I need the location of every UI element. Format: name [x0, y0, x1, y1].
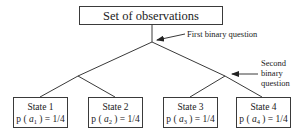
- state-node-3: State 3 p ( a3 ) = 1/4: [164, 98, 218, 128]
- state-probability: p ( a4 ) = 1/4: [239, 114, 288, 125]
- state-label: State 3: [177, 102, 203, 112]
- state-node-4: State 4 p ( a4 ) = 1/4: [237, 98, 291, 128]
- first-question-annotation: First binary question: [157, 29, 258, 40]
- root-node: Set of observations: [80, 7, 223, 25]
- state-label: State 2: [102, 102, 128, 112]
- second-question-line-2: binary: [261, 68, 283, 78]
- first-question-label: First binary question: [187, 29, 258, 39]
- edge-left-branch: [78, 42, 152, 76]
- state-node-1: State 1 p ( a1 ) = 1/4: [14, 98, 68, 128]
- edge-to-state-4: [225, 76, 262, 97]
- edge-to-state-2: [78, 76, 115, 97]
- edge-to-state-3: [190, 76, 225, 97]
- state-probability: p ( a1 ) = 1/4: [16, 114, 65, 125]
- second-question-annotation: Second binary question: [232, 58, 291, 88]
- arrow-icon: [157, 34, 185, 40]
- state-probability: p ( a2 ) = 1/4: [91, 114, 140, 125]
- edge-to-state-1: [40, 76, 78, 97]
- state-node-2: State 2 p ( a2 ) = 1/4: [89, 98, 143, 128]
- root-label: Set of observations: [103, 9, 199, 23]
- binary-decision-tree: Set of observations First binary questio…: [0, 0, 305, 136]
- state-probability: p ( a3 ) = 1/4: [166, 114, 215, 125]
- edge-right-branch: [152, 42, 225, 76]
- state-label: State 1: [27, 102, 53, 112]
- second-question-line-1: Second: [261, 58, 287, 68]
- state-label: State 4: [250, 102, 276, 112]
- second-question-line-3: question: [261, 78, 291, 88]
